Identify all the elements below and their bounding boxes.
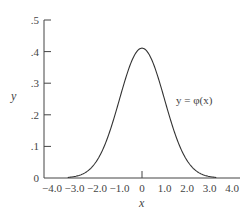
x-tick-label: −2.0 xyxy=(87,182,107,194)
x-tick-label: −1.0 xyxy=(110,182,130,194)
y-tick-label: .1 xyxy=(31,140,39,152)
y-tick-label: .5 xyxy=(31,14,40,26)
y-axis-label: y xyxy=(10,89,17,103)
density-curve xyxy=(68,48,217,177)
y-tick-label: .2 xyxy=(31,109,39,121)
x-tick-label: 0 xyxy=(139,182,145,194)
normal-density-chart: 0.1.2.3.4.5−4.0−3.0−2.0−1.001.02.03.04.0… xyxy=(0,0,250,219)
y-tick-label: .4 xyxy=(31,46,40,58)
x-tick-label: 2.0 xyxy=(180,182,194,194)
x-axis-label: x xyxy=(138,196,145,210)
x-tick-label: 4.0 xyxy=(225,182,239,194)
x-tick-label: −4.0 xyxy=(42,182,62,194)
x-tick-label: 3.0 xyxy=(203,182,217,194)
y-tick-label: 0 xyxy=(34,172,40,184)
x-tick-label: 1.0 xyxy=(158,182,172,194)
x-tick-label: −3.0 xyxy=(65,182,85,194)
curve-label: y = φ(x) xyxy=(176,94,213,107)
y-tick-label: .3 xyxy=(31,77,40,89)
